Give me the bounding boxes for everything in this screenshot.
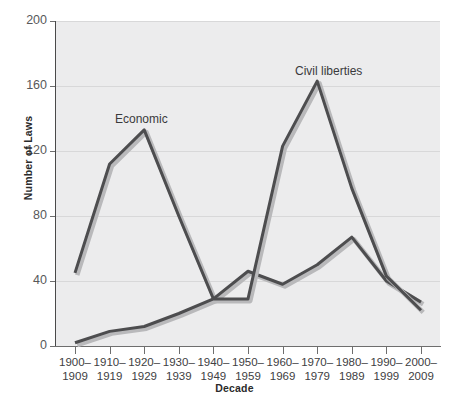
- series-shadow-economic: [77, 132, 423, 304]
- series-annotation-economic: Economic: [115, 112, 168, 126]
- series-annotation-civil-liberties: Civil liberties: [295, 64, 362, 78]
- series-lines-group: [0, 0, 469, 404]
- chart-figure: 04080120160200 Number of Laws 1900–19091…: [0, 0, 469, 404]
